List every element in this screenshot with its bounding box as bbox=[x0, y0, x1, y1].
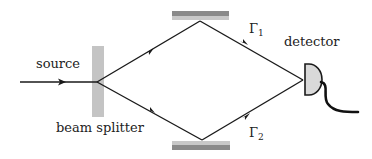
detector-cable bbox=[321, 82, 358, 112]
beam-splitter-label: beam splitter bbox=[56, 121, 144, 134]
detector-label: detector bbox=[284, 35, 339, 48]
gamma1-subscript: 1 bbox=[258, 28, 264, 38]
detector-icon bbox=[305, 64, 358, 112]
diagram-canvas bbox=[0, 0, 372, 159]
mirror-top bbox=[172, 11, 229, 20]
source-beam bbox=[20, 79, 97, 86]
gamma2-symbol: Γ bbox=[249, 125, 258, 140]
mirror-bottom bbox=[172, 141, 230, 150]
source-label: source bbox=[36, 57, 80, 70]
gamma2-label: Γ2 bbox=[249, 126, 264, 142]
gamma2-subscript: 2 bbox=[258, 132, 264, 142]
interferometer-diagram: source beam splitter detector Γ1 Γ2 bbox=[0, 0, 372, 159]
gamma1-label: Γ1 bbox=[249, 22, 264, 38]
beam-path-upper-left bbox=[97, 21, 200, 82]
gamma1-symbol: Γ bbox=[249, 21, 258, 36]
